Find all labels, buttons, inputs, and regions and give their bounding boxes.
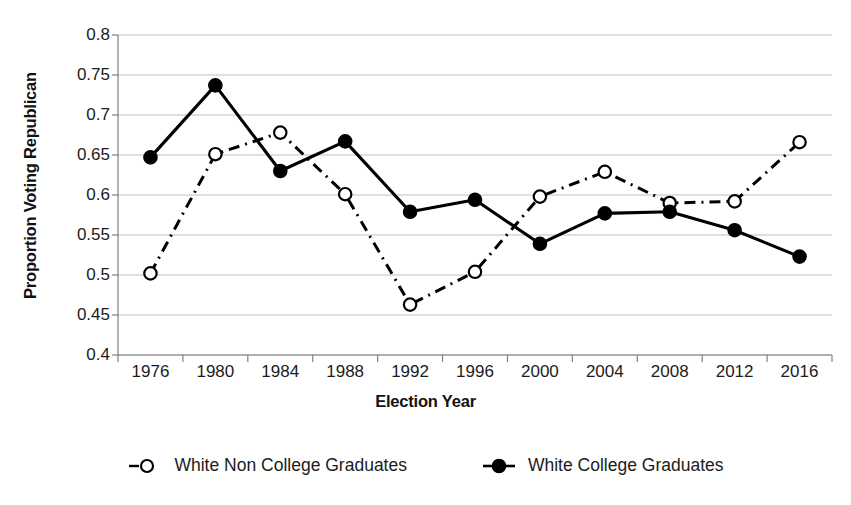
x-axis-tick-label: 2004 bbox=[586, 362, 624, 382]
data-point-marker bbox=[209, 148, 221, 160]
data-point-marker bbox=[469, 266, 481, 278]
x-axis-tick-label: 2008 bbox=[651, 362, 689, 382]
y-axis-tick-labels: 0.80.750.70.650.60.550.50.450.4 bbox=[48, 0, 110, 505]
legend-item-2: White College Graduates bbox=[481, 455, 724, 476]
legend-label: White College Graduates bbox=[528, 455, 724, 476]
legend-label: White Non College Graduates bbox=[174, 455, 406, 476]
data-point-marker bbox=[663, 205, 676, 218]
x-axis-title: Election Year bbox=[0, 392, 851, 411]
series-line-2 bbox=[150, 85, 799, 256]
legend-marker-filled-circle-icon bbox=[481, 457, 521, 475]
y-axis-title-container: Proportion Voting Republican bbox=[8, 0, 52, 370]
legend-marker-open-circle-icon bbox=[127, 457, 167, 475]
data-point-marker bbox=[533, 237, 546, 250]
y-axis-tick-label: 0.7 bbox=[86, 105, 110, 125]
data-point-marker bbox=[144, 151, 157, 164]
x-axis-tick-label: 2012 bbox=[716, 362, 754, 382]
y-axis-tick-label: 0.75 bbox=[77, 65, 110, 85]
line-chart-plot-area bbox=[0, 0, 851, 505]
data-point-marker bbox=[468, 193, 481, 206]
data-point-marker bbox=[793, 136, 805, 148]
y-axis-title: Proportion Voting Republican bbox=[21, 72, 40, 299]
x-axis-tick-label: 1984 bbox=[261, 362, 299, 382]
x-axis-tick-label: 1980 bbox=[196, 362, 234, 382]
data-point-marker bbox=[274, 126, 286, 138]
x-axis-tick-label: 2016 bbox=[781, 362, 819, 382]
y-axis-tick-label: 0.65 bbox=[77, 145, 110, 165]
data-point-marker bbox=[209, 79, 222, 92]
data-point-marker bbox=[793, 250, 806, 263]
data-point-marker bbox=[599, 166, 611, 178]
data-point-marker bbox=[403, 205, 416, 218]
y-axis-tick-label: 0.4 bbox=[86, 345, 110, 365]
y-axis-tick-label: 0.55 bbox=[77, 225, 110, 245]
x-axis-tick-label: 1996 bbox=[456, 362, 494, 382]
x-axis-tick-label: 1976 bbox=[132, 362, 170, 382]
data-point-marker bbox=[534, 190, 546, 202]
data-point-marker bbox=[728, 195, 740, 207]
data-point-marker bbox=[274, 164, 287, 177]
x-axis-tick-label: 2000 bbox=[521, 362, 559, 382]
y-axis-tick-label: 0.8 bbox=[86, 25, 110, 45]
data-point-marker bbox=[728, 224, 741, 237]
legend-item-1: White Non College Graduates bbox=[127, 455, 406, 476]
chart-figure: Proportion Voting Republican 0.80.750.70… bbox=[0, 0, 851, 505]
x-axis-tick-label: 1992 bbox=[391, 362, 429, 382]
y-axis-tick-label: 0.6 bbox=[86, 185, 110, 205]
y-axis-tick-label: 0.45 bbox=[77, 305, 110, 325]
data-point-marker bbox=[339, 188, 351, 200]
data-point-marker bbox=[598, 207, 611, 220]
chart-legend: White Non College GraduatesWhite College… bbox=[0, 455, 851, 476]
data-point-marker bbox=[404, 298, 416, 310]
data-point-marker bbox=[339, 135, 352, 148]
data-point-marker bbox=[144, 267, 156, 279]
x-axis-tick-label: 1988 bbox=[326, 362, 364, 382]
y-axis-tick-label: 0.5 bbox=[86, 265, 110, 285]
